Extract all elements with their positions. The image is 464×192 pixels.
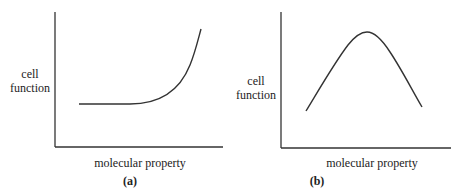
panel-a-axes <box>55 12 223 147</box>
panel-a-caption: (a) <box>100 174 160 189</box>
panel-a-y-axis-label: cell function <box>0 67 60 95</box>
panel-b-caption: (b) <box>287 174 347 189</box>
y-label-line2: function <box>226 88 286 102</box>
panel-a-curve <box>79 29 201 104</box>
panel-b-y-axis-label: cell function <box>226 74 286 102</box>
y-label-line2: function <box>0 81 60 95</box>
panel-a-x-axis-label: molecular property <box>60 156 220 171</box>
panel-b-curve <box>306 32 422 111</box>
y-label-line1: cell <box>226 74 286 88</box>
panel-b-x-axis-label: molecular property <box>292 156 452 171</box>
y-label-line1: cell <box>0 67 60 81</box>
